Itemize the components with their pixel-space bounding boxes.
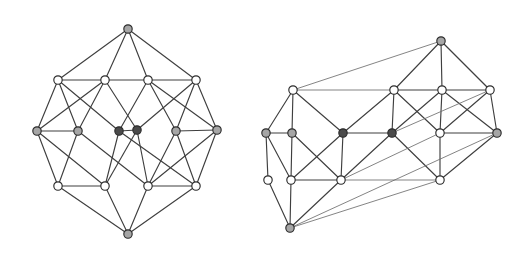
graph-vertex — [436, 176, 444, 184]
graph-vertex — [144, 76, 152, 84]
graph-vertex — [101, 76, 109, 84]
graph-vertex — [192, 182, 200, 190]
graph-vertex — [339, 129, 347, 137]
graph-vertex — [144, 182, 152, 190]
graph-vertex — [54, 182, 62, 190]
graph-vertex — [493, 129, 501, 137]
graph-vertex — [172, 127, 180, 135]
graph-vertex — [287, 176, 295, 184]
graph-vertex — [264, 176, 272, 184]
graph-vertex — [436, 129, 444, 137]
graph-vertex — [289, 86, 297, 94]
graph-vertex — [437, 37, 445, 45]
graph-vertex — [101, 182, 109, 190]
graph-vertex — [192, 76, 200, 84]
graph-vertex — [486, 86, 494, 94]
graph-vertex — [124, 25, 132, 33]
graph-vertex — [288, 129, 296, 137]
graph-vertex — [262, 129, 270, 137]
graph-vertex — [133, 126, 141, 134]
graph-vertex — [115, 127, 123, 135]
graph-vertex — [438, 86, 446, 94]
graph-vertex — [54, 76, 62, 84]
graph-vertex — [124, 230, 132, 238]
graph-vertex — [390, 86, 398, 94]
graph-vertex — [213, 126, 221, 134]
graph-figure-canvas — [0, 0, 530, 266]
graph-vertex — [337, 176, 345, 184]
graph-vertex — [74, 127, 82, 135]
graph-vertex — [388, 129, 396, 137]
graph-vertex — [33, 127, 41, 135]
figure-root — [0, 0, 530, 266]
graph-vertex — [286, 224, 294, 232]
